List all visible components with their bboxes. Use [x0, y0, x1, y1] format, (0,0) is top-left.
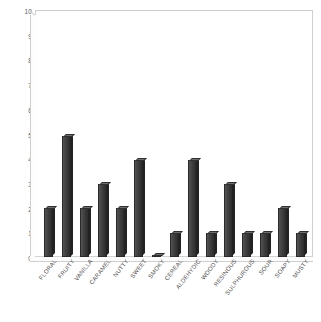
x-axis: FLORALFRUITYVANILLACARAMELNUTTYSWEETSMOK… — [35, 258, 313, 320]
bar[interactable] — [116, 208, 125, 257]
bar-side-face — [70, 134, 73, 257]
bar-slot — [93, 10, 111, 257]
bar-side-face — [286, 206, 289, 256]
bar-side-face — [178, 231, 181, 256]
bar-slot — [291, 10, 309, 257]
bar[interactable] — [152, 255, 161, 257]
bar-side-face — [142, 158, 145, 256]
bar[interactable] — [260, 233, 269, 257]
bar-top-face — [63, 134, 75, 137]
bar-top-face — [153, 253, 165, 256]
bar[interactable] — [98, 184, 107, 257]
bar-side-face — [124, 206, 127, 256]
bar-top-face — [297, 231, 309, 234]
bar-side-face — [52, 206, 55, 256]
bar-top-face — [261, 231, 273, 234]
bar-side-face — [196, 158, 199, 256]
bar-slot — [183, 10, 201, 257]
bar-slot — [273, 10, 291, 257]
bar[interactable] — [62, 136, 71, 258]
x-axis-tick-label: NUTTY — [112, 258, 130, 278]
bar-slot — [165, 10, 183, 257]
plot-area — [35, 10, 313, 257]
bar-side-face — [232, 182, 235, 256]
bar-slot — [111, 10, 129, 257]
x-axis-tick-label: SWEET — [129, 258, 147, 279]
bar[interactable] — [296, 233, 305, 257]
bar[interactable] — [188, 160, 197, 257]
x-axis-tick-label: SOAPY — [274, 258, 292, 279]
bar[interactable] — [278, 208, 287, 257]
bar-slot — [219, 10, 237, 257]
bar-slot — [201, 10, 219, 257]
bar[interactable] — [44, 208, 53, 257]
bar-top-face — [207, 231, 219, 234]
x-axis-tick-label: FLORAL — [38, 258, 58, 281]
bar-side-face — [88, 206, 91, 256]
bar-series — [35, 10, 313, 257]
bar-top-face — [171, 231, 183, 234]
bar[interactable] — [206, 233, 215, 257]
x-axis-tick-label: SOUR — [258, 258, 274, 276]
bar-side-face — [106, 182, 109, 256]
bar-slot — [75, 10, 93, 257]
bar-side-face — [268, 231, 271, 256]
bar-top-face — [243, 231, 255, 234]
bar-slot — [129, 10, 147, 257]
bar-side-face — [214, 231, 217, 256]
bar-slot — [255, 10, 273, 257]
bar[interactable] — [134, 160, 143, 257]
bar-slot — [39, 10, 57, 257]
bar-slot — [237, 10, 255, 257]
bar[interactable] — [170, 233, 179, 257]
bar-chart: 109876543210 FLORALFRUITYVANILLACARAMELN… — [0, 0, 321, 322]
bar-slot — [57, 10, 75, 257]
bar[interactable] — [224, 184, 233, 257]
x-axis-tick-label: MUSTY — [291, 258, 309, 279]
bar-side-face — [304, 231, 307, 256]
bar-slot — [147, 10, 165, 257]
bar-side-face — [250, 231, 253, 256]
bar[interactable] — [242, 233, 251, 257]
bar[interactable] — [80, 208, 89, 257]
